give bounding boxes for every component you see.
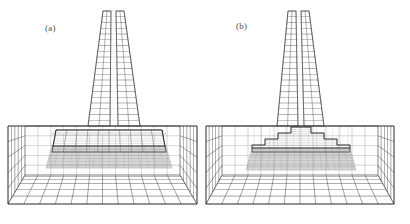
panel-label-b: (b) <box>236 21 247 31</box>
finite-element-mesh-figure: (a) (b) <box>0 0 410 224</box>
panel-a <box>8 11 197 204</box>
mesh-drawing-canvas <box>0 0 410 224</box>
panel-label-a: (a) <box>45 23 56 33</box>
panel-b <box>206 11 394 204</box>
